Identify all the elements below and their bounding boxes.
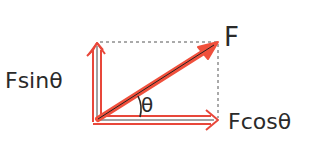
vertical-component-arrow (87, 43, 105, 122)
force-label: F (224, 24, 239, 50)
vertical-component-label: Fsinθ (5, 70, 63, 92)
horizontal-component-label: Fcosθ (228, 111, 291, 133)
angle-label: θ (141, 95, 153, 115)
force-arrow (98, 42, 218, 119)
